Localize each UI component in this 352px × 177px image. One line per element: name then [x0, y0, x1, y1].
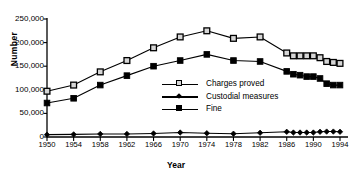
data-point-fine — [297, 72, 303, 78]
x-axis-tick-label: 1970 — [172, 141, 189, 149]
data-point-custodial-measures — [324, 129, 329, 134]
data-point-custodial-measures — [204, 131, 209, 136]
data-point-charges-proved — [304, 53, 310, 59]
x-axis-title: Year — [0, 160, 352, 170]
data-point-fine — [317, 76, 323, 82]
data-point-custodial-measures — [304, 130, 309, 135]
legend-label: Charges proved — [200, 78, 264, 91]
data-point-charges-proved — [257, 34, 263, 40]
legend-item-custodial-measures: Custodial measures — [160, 91, 278, 104]
data-point-custodial-measures — [291, 130, 296, 135]
chart-figure: Number 250,000200,000150,000100,00050,00… — [0, 0, 352, 177]
data-point-fine — [177, 58, 183, 64]
x-axis-tick-label: 1994 — [332, 141, 349, 149]
data-point-fine — [124, 73, 130, 79]
data-point-charges-proved — [151, 45, 157, 51]
data-point-fine — [311, 74, 317, 80]
data-point-custodial-measures — [297, 130, 302, 135]
data-point-charges-proved — [290, 53, 296, 59]
x-axis-tick-label: 1954 — [65, 141, 82, 149]
data-point-fine — [304, 74, 310, 80]
data-point-custodial-measures — [71, 132, 76, 137]
data-point-custodial-measures — [124, 131, 129, 136]
data-point-fine — [231, 58, 237, 64]
x-axis-tick-label: 1986 — [278, 141, 295, 149]
data-point-custodial-measures — [317, 129, 322, 134]
data-point-custodial-measures — [311, 130, 316, 135]
data-point-fine — [331, 82, 337, 88]
open-square-icon — [160, 78, 200, 90]
data-point-custodial-measures — [231, 131, 236, 136]
legend-label: Fine — [200, 103, 222, 116]
filled-square-icon — [160, 103, 200, 115]
data-point-fine — [97, 82, 103, 88]
legend-item-charges-proved: Charges proved — [160, 78, 278, 91]
data-point-fine — [44, 100, 50, 106]
data-point-custodial-measures — [337, 129, 342, 134]
x-axis-tick-label: 1990 — [305, 141, 322, 149]
data-point-charges-proved — [324, 59, 330, 65]
data-point-custodial-measures — [257, 130, 262, 135]
data-point-fine — [71, 95, 77, 101]
data-point-fine — [151, 63, 157, 69]
data-point-charges-proved — [317, 55, 323, 61]
data-point-fine — [257, 59, 263, 65]
data-point-charges-proved — [284, 50, 290, 56]
data-point-custodial-measures — [177, 130, 182, 135]
x-axis-tick-label: 1966 — [145, 141, 162, 149]
data-point-custodial-measures — [331, 129, 336, 134]
data-point-custodial-measures — [151, 131, 156, 136]
chart-legend: Charges proved Custodial measures Fine — [160, 78, 278, 116]
data-point-custodial-measures — [284, 129, 289, 134]
data-point-charges-proved — [310, 53, 316, 59]
data-point-charges-proved — [330, 60, 336, 66]
data-point-charges-proved — [297, 53, 303, 59]
x-axis-tick-label: 1962 — [118, 141, 135, 149]
data-point-fine — [291, 71, 297, 77]
x-axis-tick-label: 1974 — [198, 141, 215, 149]
data-point-charges-proved — [124, 58, 130, 64]
x-axis-tick-label: 1958 — [92, 141, 109, 149]
x-axis-tick-label: 1950 — [39, 141, 56, 149]
x-axis-tick-label: 1982 — [252, 141, 269, 149]
data-point-charges-proved — [177, 34, 183, 40]
data-point-fine — [204, 52, 210, 58]
data-point-charges-proved — [204, 28, 210, 34]
filled-diamond-icon — [160, 91, 200, 103]
data-point-charges-proved — [44, 88, 50, 94]
data-point-charges-proved — [97, 69, 103, 75]
legend-item-fine: Fine — [160, 103, 278, 116]
legend-label: Custodial measures — [200, 91, 278, 104]
x-axis-tick-label: 1978 — [225, 141, 242, 149]
data-point-charges-proved — [71, 82, 77, 88]
data-point-charges-proved — [231, 35, 237, 41]
data-point-charges-proved — [337, 60, 343, 66]
data-point-fine — [324, 81, 330, 87]
data-point-fine — [284, 69, 290, 75]
data-point-fine — [337, 82, 343, 88]
data-point-custodial-measures — [98, 131, 103, 136]
